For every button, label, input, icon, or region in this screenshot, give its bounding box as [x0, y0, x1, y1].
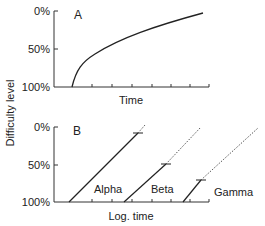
ytick-0: 0% [34, 121, 50, 133]
curve-a [72, 13, 203, 87]
ytick-50: 50% [28, 159, 50, 171]
ytick-100: 100% [22, 196, 50, 208]
y-axis-label: Difficulty level [4, 79, 16, 146]
gamma-line [183, 180, 201, 202]
ytick-100: 100% [22, 81, 50, 93]
ytick-50: 50% [28, 43, 50, 55]
panel-a: 0% 50% 100% A Time [22, 5, 209, 106]
ytick-0: 0% [34, 5, 50, 17]
series-label-gamma: Gamma [214, 186, 254, 198]
panel-b: 0% 50% 100% B Log. time Alpha Beta Gamma [22, 121, 258, 222]
x-axis-label-b: Log. time [108, 210, 153, 222]
series-label-alpha: Alpha [94, 183, 123, 195]
series-label-beta: Beta [151, 183, 175, 195]
x-axis-label-a: Time [119, 94, 143, 106]
chart-figure: Difficulty level 0% 50% 100% A Time 0% [0, 0, 265, 226]
panel-label-a: A [74, 8, 82, 22]
panel-label-b: B [73, 124, 81, 138]
